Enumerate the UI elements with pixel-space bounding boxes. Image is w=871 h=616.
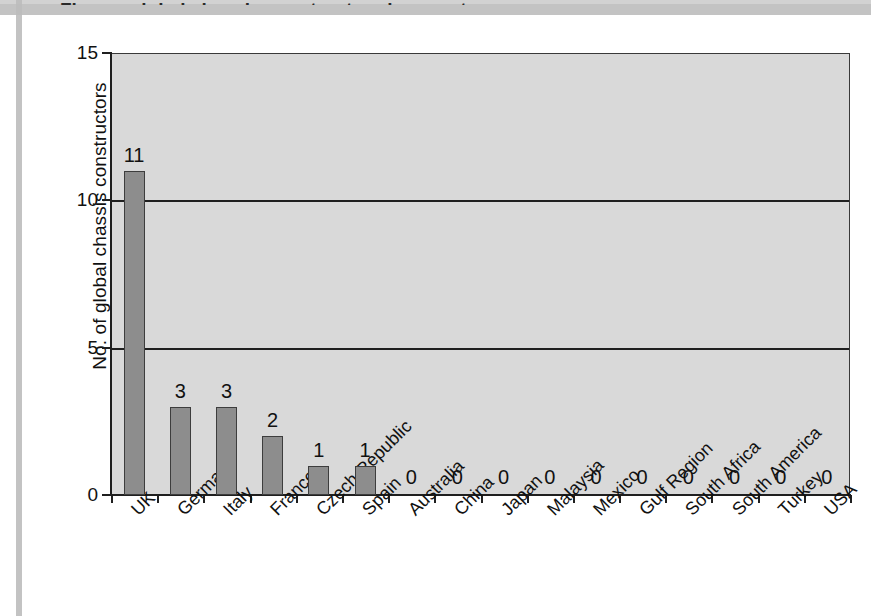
- gridline-y-5: [112, 348, 849, 350]
- bar: [262, 436, 283, 495]
- y-tick-label: 10: [62, 190, 98, 209]
- bar: [216, 407, 237, 495]
- page-canvas: Figure: global chassis constructors by c…: [0, 0, 871, 616]
- y-tick-mark-0: [102, 494, 110, 496]
- bar-value-label: 1: [335, 440, 395, 460]
- gridline-y-10: [112, 200, 849, 202]
- bar-value-label: 2: [243, 410, 303, 430]
- bar-value-label: 11: [104, 145, 164, 165]
- bar: [124, 171, 145, 495]
- bar-chart: No. of global chassis constructors 05101…: [0, 0, 871, 616]
- y-tick-label: 5: [62, 338, 98, 357]
- y-axis-title: No. of global chassis constructors: [89, 16, 111, 436]
- bar: [170, 407, 191, 495]
- y-tick-mark-10: [102, 199, 110, 201]
- y-tick-label: 0: [62, 485, 98, 504]
- y-tick-label: 15: [62, 43, 98, 62]
- y-tick-mark-5: [102, 347, 110, 349]
- y-tick-mark-15: [102, 52, 110, 54]
- x-tick-mark: [111, 495, 113, 503]
- bar-value-label: 3: [196, 381, 256, 401]
